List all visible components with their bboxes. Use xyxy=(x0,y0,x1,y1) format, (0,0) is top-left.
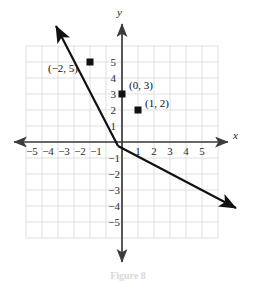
y-tick-label: −4 xyxy=(108,200,120,212)
x-tick-label: −5 xyxy=(26,145,38,157)
x-tick-label: −4 xyxy=(42,145,54,157)
y-tick-label: −1 xyxy=(108,152,120,164)
coordinate-plane-graph: x y −5 −4 −3 −2 −1 1 2 3 4 5 5 4 3 2 1 −… xyxy=(0,0,256,281)
x-axis-tick-labels-positive: 1 2 3 4 5 xyxy=(135,145,205,157)
figure-caption: Figure 8 xyxy=(110,270,146,281)
y-tick-label: −3 xyxy=(108,184,120,196)
y-axis-tick-labels-positive: 5 4 3 2 1 xyxy=(111,56,117,132)
y-tick-label: 3 xyxy=(111,88,117,100)
point-label-1-2: (1, 2) xyxy=(145,97,169,110)
y-tick-label: 5 xyxy=(111,56,117,68)
point-label-0-3: (0, 3) xyxy=(129,79,153,92)
y-tick-label: −5 xyxy=(108,216,120,228)
x-axis-label: x xyxy=(232,129,238,141)
x-tick-label: 2 xyxy=(151,145,157,157)
y-tick-label: 1 xyxy=(111,120,117,132)
x-tick-label: −2 xyxy=(74,145,86,157)
x-tick-label: 4 xyxy=(183,145,189,157)
y-tick-label: −2 xyxy=(108,168,120,180)
y-tick-label: 4 xyxy=(111,72,117,84)
data-point-marker xyxy=(87,59,94,66)
y-axis-tick-labels-negative: −1 −2 −3 −4 −5 xyxy=(108,152,120,228)
x-tick-label: −1 xyxy=(90,145,102,157)
x-tick-label: 5 xyxy=(199,145,205,157)
y-tick-label: 2 xyxy=(111,104,117,116)
x-tick-label: −3 xyxy=(58,145,70,157)
x-axis-tick-labels-negative: −5 −4 −3 −2 −1 xyxy=(26,145,102,157)
data-point-marker xyxy=(135,107,142,114)
y-axis-label: y xyxy=(116,6,122,18)
data-point-marker xyxy=(119,91,126,98)
plotted-line xyxy=(56,26,236,208)
point-label-minus2-5: (−2, 5) xyxy=(48,62,78,75)
x-tick-label: 3 xyxy=(167,145,173,157)
figure-container: x y −5 −4 −3 −2 −1 1 2 3 4 5 5 4 3 2 1 −… xyxy=(0,0,256,281)
